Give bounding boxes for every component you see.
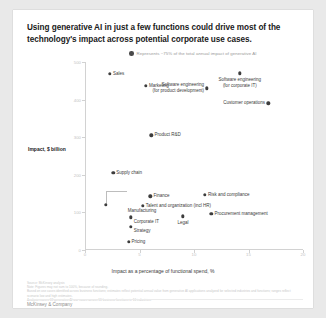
legend-marker-icon <box>129 51 134 56</box>
data-point[interactable] <box>144 84 147 87</box>
y-axis-tick <box>82 175 85 176</box>
y-axis-tick-label: 500 <box>74 60 81 65</box>
x-axis-tick-label: 15 <box>246 252 251 257</box>
chart-card: Using generative AI in just a few functi… <box>13 10 313 308</box>
data-point-label: Customer operations <box>223 101 265 107</box>
data-point-label: Risk and compliance <box>208 192 250 198</box>
y-axis-tick-label: 300 <box>74 135 81 140</box>
y-axis-tick <box>82 62 85 63</box>
data-point-label: Finance <box>153 193 169 199</box>
data-point-label: Corporate IT <box>134 219 159 225</box>
data-point[interactable] <box>203 193 206 196</box>
data-point[interactable] <box>141 204 144 207</box>
data-point-label: Product R&D <box>154 133 180 139</box>
x-axis-tick-label: 5 <box>138 252 140 257</box>
data-point[interactable] <box>129 225 132 228</box>
data-point-label: Procurement management <box>214 211 267 217</box>
x-axis-title: Impact as a percentage of functional spe… <box>13 268 313 274</box>
scatter-plot: 010020030040050005101520SalesMarketingSo… <box>85 62 303 250</box>
data-point[interactable] <box>104 203 107 206</box>
y-axis-tick-label: 100 <box>74 210 81 215</box>
chart-legend: Represents ~75% of the total annual impa… <box>129 51 257 56</box>
data-point[interactable] <box>108 72 111 75</box>
x-axis-tick-label: 20 <box>301 252 306 257</box>
data-point[interactable] <box>150 134 153 137</box>
divider <box>27 299 303 300</box>
x-axis-tick-label: 10 <box>192 252 197 257</box>
data-point[interactable] <box>210 212 213 215</box>
data-point-label: Strategy <box>134 228 151 234</box>
data-point[interactable] <box>112 171 115 174</box>
data-point[interactable] <box>127 240 130 243</box>
data-point-label: Supply chain <box>116 170 142 176</box>
data-point-label: Software engineering (for product develo… <box>153 83 205 94</box>
data-point-label: Pricing <box>132 239 146 245</box>
data-point[interactable] <box>149 195 152 198</box>
data-point-label: Software engineering (for corporate IT) <box>219 77 262 88</box>
legend-label: Represents ~75% of the total annual impa… <box>137 51 257 56</box>
y-axis-tick <box>82 100 85 101</box>
data-point[interactable] <box>129 216 132 219</box>
data-point-label: Manufacturing <box>128 208 157 214</box>
manufacturing-leader-line <box>106 191 127 206</box>
y-axis-title: Impact, $ billion <box>28 146 66 152</box>
y-axis-tick <box>82 212 85 213</box>
x-axis-tick-label: 0 <box>84 252 86 257</box>
y-axis-tick-label: 200 <box>74 172 81 177</box>
data-point[interactable] <box>238 72 241 75</box>
data-point-label: Legal <box>178 220 189 226</box>
y-axis-tick <box>82 137 85 138</box>
brand-label: McKinsey & Company <box>27 302 72 307</box>
y-axis-tick-label: 400 <box>74 97 81 102</box>
data-point[interactable] <box>266 102 269 105</box>
y-axis-line <box>85 62 86 250</box>
data-point-label: Talent and organization (incl HR) <box>146 203 211 209</box>
data-point[interactable] <box>181 214 184 217</box>
data-point[interactable] <box>205 87 208 90</box>
y-axis-tick-label: 0 <box>79 248 81 253</box>
page-title: Using generative AI in just a few functi… <box>27 22 299 45</box>
footnote-line: Based on use cases identified across bus… <box>27 289 303 297</box>
data-point-label: Sales <box>113 71 124 77</box>
